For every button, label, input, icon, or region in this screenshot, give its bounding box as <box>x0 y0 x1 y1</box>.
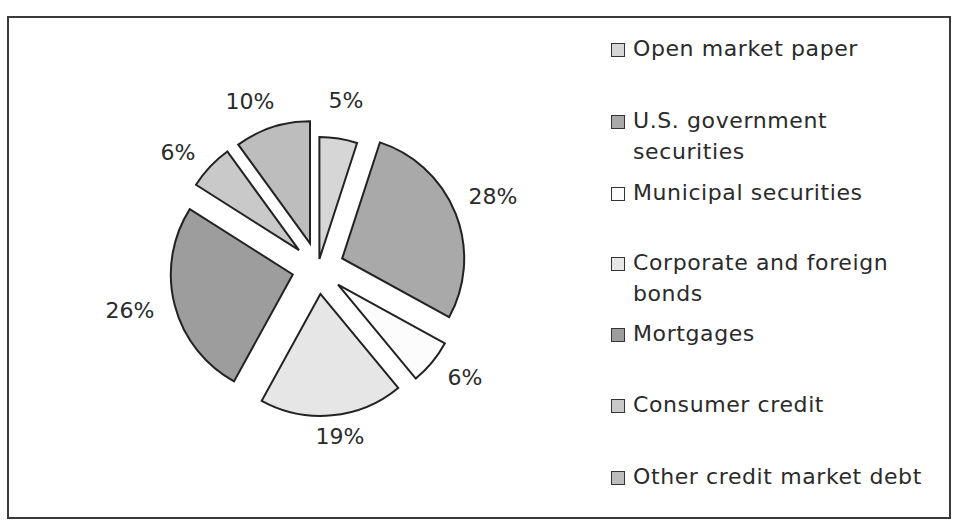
pie-value-label: 6% <box>161 140 196 165</box>
legend-item-mortgages: Mortgages <box>611 321 755 349</box>
pie-value-label: 10% <box>226 89 275 114</box>
legend-label: Mortgages <box>633 318 755 349</box>
legend-item-us-government-securities: U.S. governmentsecurities <box>611 108 827 167</box>
legend-swatch-icon <box>611 257 625 271</box>
pie-value-label: 26% <box>106 298 155 323</box>
legend-label: Corporate and foreignbonds <box>633 247 888 309</box>
legend-swatch-icon <box>611 187 625 201</box>
legend-label: U.S. governmentsecurities <box>633 105 827 167</box>
pie-value-label: 5% <box>329 88 364 113</box>
pie-slice-u-s-government-securities <box>342 142 464 317</box>
legend-swatch-icon <box>611 43 625 57</box>
legend-swatch-icon <box>611 399 625 413</box>
legend-item-other-credit-market-debt: Other credit market debt <box>611 464 922 492</box>
legend-item-municipal-securities: Municipal securities <box>611 180 863 208</box>
pie-value-label: 6% <box>448 365 483 390</box>
pie-slices <box>171 121 464 416</box>
legend-item-consumer-credit: Consumer credit <box>611 392 824 420</box>
pie-value-label: 28% <box>469 184 518 209</box>
legend-label: Other credit market debt <box>633 461 922 492</box>
legend-label: Municipal securities <box>633 177 863 208</box>
legend-item-corporate-foreign-bonds: Corporate and foreignbonds <box>611 250 888 309</box>
legend-label: Open market paper <box>633 33 858 64</box>
legend-swatch-icon <box>611 328 625 342</box>
legend-swatch-icon <box>611 115 625 129</box>
legend-label: Consumer credit <box>633 389 824 420</box>
pie-value-label: 19% <box>316 424 365 449</box>
legend-swatch-icon <box>611 471 625 485</box>
legend-item-open-market-paper: Open market paper <box>611 36 858 64</box>
legend: Open market paper U.S. governmentsecurit… <box>611 0 951 529</box>
